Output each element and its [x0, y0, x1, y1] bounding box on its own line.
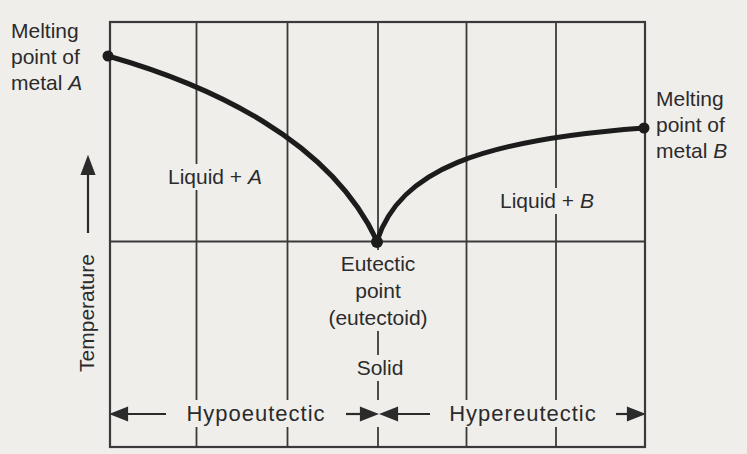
eutectic-line2: point — [317, 277, 439, 304]
metal-a-symbol: A — [248, 165, 262, 188]
hypereutectic-label: Hypereutectic — [432, 402, 614, 426]
metal-b-symbol: B — [580, 189, 594, 212]
eutectic-point-label: Eutectic point (eutectoid) — [317, 250, 439, 331]
temperature-axis-arrow — [82, 158, 94, 233]
melting-point-b-line1: Melting — [656, 86, 727, 112]
eutectic-point-marker — [371, 236, 383, 248]
liquidus-curve-a — [108, 56, 377, 241]
eutectic-line3: (eutectoid) — [317, 304, 439, 331]
melting-point-a-line2: point of — [11, 44, 82, 70]
melting-point-b-marker — [639, 123, 650, 134]
liquidus-curve-b — [377, 128, 644, 241]
melting-point-b-line3: metal B — [656, 138, 727, 164]
temperature-axis-label: Temperature — [75, 254, 99, 372]
solid-region-label: Solid — [348, 355, 412, 381]
melting-point-b-label: Melting point of metal B — [656, 86, 727, 164]
eutectic-line1: Eutectic — [317, 250, 439, 277]
region-liquid-b-label: Liquid + B — [482, 188, 612, 214]
melting-point-a-marker — [103, 51, 114, 62]
hypoeutectic-label: Hypoeutectic — [168, 402, 344, 426]
metal-a-symbol: A — [68, 71, 82, 94]
melting-point-a-label: Melting point of metal A — [11, 18, 82, 96]
melting-point-a-line1: Melting — [11, 18, 82, 44]
melting-point-b-line2: point of — [656, 112, 727, 138]
temperature-arrowhead-icon — [82, 158, 94, 174]
metal-b-symbol: B — [713, 139, 727, 162]
melting-point-a-line3: metal A — [11, 70, 82, 96]
phase-diagram-canvas — [0, 0, 747, 454]
region-liquid-a-label: Liquid + A — [150, 164, 280, 190]
